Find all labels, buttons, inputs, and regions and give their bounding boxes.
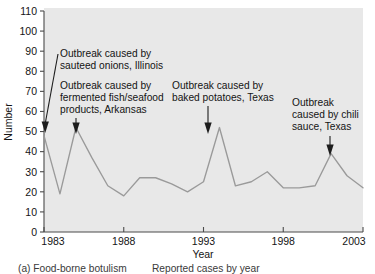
chart-figure: 0102030405060708090100110 19831988199319… — [0, 0, 375, 274]
x-tick-label: 1998 — [272, 235, 296, 247]
annot-fermented-fish-line-2: fermented fish/seafood — [60, 92, 164, 103]
y-tick-label: 50 — [25, 125, 37, 137]
x-tick-label: 1988 — [112, 235, 136, 247]
annot-baked-potatoes: Outbreak caused by baked potatoes, Texas — [172, 80, 274, 134]
annot-chili-sauce-line-3: sauce, Texas — [292, 121, 351, 132]
annot-fermented-fish-line-3: products, Arkansas — [60, 104, 147, 115]
annot-sauteed-onions-line-2: sauteed onions, Illinois — [60, 60, 163, 71]
annot-baked-potatoes-arrowhead — [204, 123, 211, 135]
y-tick-label: 60 — [25, 105, 37, 117]
y-tick-label: 100 — [19, 25, 37, 37]
x-tick-label: 1983 — [41, 235, 65, 247]
x-tick-label: 2003 — [342, 235, 366, 247]
y-tick-label: 80 — [25, 65, 37, 77]
y-axis-ticks: 0102030405060708090100110 — [19, 5, 44, 238]
chart-canvas: 0102030405060708090100110 19831988199319… — [0, 0, 375, 274]
annot-sauteed-onions-leader — [46, 54, 59, 122]
y-tick-label: 40 — [25, 145, 37, 157]
annot-fermented-fish: Outbreak caused by fermented fish/seafoo… — [60, 80, 164, 134]
y-tick-label: 20 — [25, 186, 37, 198]
y-tick-label: 10 — [25, 206, 37, 218]
annot-baked-potatoes-line-2: baked potatoes, Texas — [172, 92, 274, 103]
annot-chili-sauce: Outbreak caused by chili sauce, Texas — [292, 97, 359, 156]
y-tick-label: 70 — [25, 85, 37, 97]
y-tick-label: 90 — [25, 45, 37, 57]
y-tick-label: 30 — [25, 166, 37, 178]
annot-chili-sauce-line-1: Outbreak — [292, 97, 335, 108]
data-series-line — [44, 128, 363, 196]
annot-fermented-fish-line-1: Outbreak caused by — [60, 80, 152, 91]
figure-caption-part-b: Reported cases by year — [152, 263, 260, 274]
annot-sauteed-onions-line-1: Outbreak caused by — [60, 48, 152, 59]
x-tick-label: 1993 — [192, 235, 216, 247]
x-axis-title: Year — [192, 248, 214, 260]
y-axis-title: Number — [2, 103, 14, 141]
figure-caption-part-a: (a) Food-borne botulism — [18, 263, 127, 274]
annot-chili-sauce-line-2: caused by chili — [292, 109, 359, 120]
y-tick-label: 110 — [20, 5, 37, 17]
x-axis-ticks: 19831988199319982003 — [41, 227, 366, 247]
annot-baked-potatoes-line-1: Outbreak caused by — [172, 80, 264, 91]
y-tick-label: 0 — [31, 226, 37, 238]
annot-chili-sauce-arrowhead — [326, 145, 333, 157]
